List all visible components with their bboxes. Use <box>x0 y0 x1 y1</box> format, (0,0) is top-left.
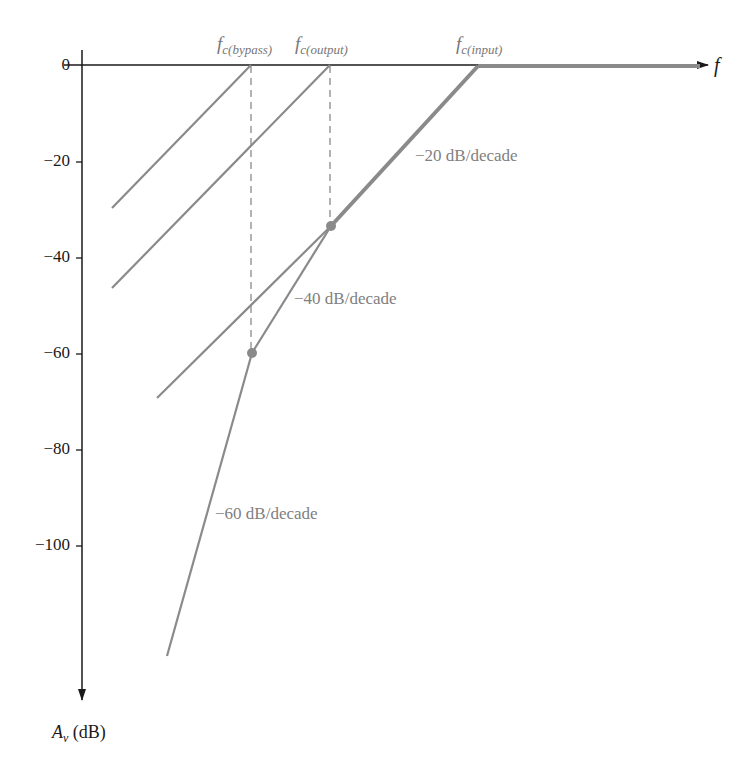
breakpoint-output-dot <box>326 221 336 231</box>
fc-output-label: fc(output) <box>295 33 348 58</box>
output-asymptote <box>112 65 330 288</box>
fc-input-label: fc(input) <box>456 33 502 58</box>
bypass-asymptote <box>112 65 251 208</box>
input-asymptote <box>157 226 331 398</box>
fc-bypass-label: fc(bypass) <box>217 33 272 58</box>
y-tick-minus-100: −100 <box>10 535 70 555</box>
y-ticks <box>76 162 82 546</box>
y-tick-0: 0 <box>10 55 70 75</box>
slope-label-minus-40: −40 dB/decade <box>294 289 397 309</box>
breakpoint-bypass-dot <box>247 348 257 358</box>
y-tick-minus-60: −60 <box>10 343 70 363</box>
bode-plot <box>0 0 754 769</box>
y-tick-minus-80: −80 <box>10 439 70 459</box>
y-axis-label: Av (dB) <box>52 722 106 746</box>
slope-label-minus-60: −60 dB/decade <box>215 504 318 524</box>
y-tick-minus-40: −40 <box>10 247 70 267</box>
slope-label-minus-20: −20 dB/decade <box>415 146 518 166</box>
x-axis-label: f <box>714 54 720 77</box>
y-tick-minus-20: −20 <box>10 151 70 171</box>
